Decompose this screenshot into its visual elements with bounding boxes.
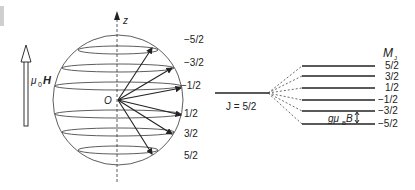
mj-label: 3/2	[184, 128, 198, 139]
spacing-label-B: B	[346, 113, 353, 124]
mj-label: 1/2	[184, 108, 198, 119]
z-axis-arrow-icon	[114, 11, 120, 20]
axis-label: z	[122, 15, 128, 26]
level-label: −1/2	[378, 94, 398, 105]
j-label: J = 5/2	[226, 101, 257, 112]
field-arrow-icon	[21, 45, 31, 126]
mj-label: −1/2	[181, 80, 201, 91]
mj-label: 5/2	[184, 150, 198, 161]
level-label: 3/2	[385, 71, 399, 82]
field-label-mu: μ	[30, 75, 37, 86]
spacing-label-g: gμ	[328, 113, 340, 124]
mj-label: −3/2	[184, 57, 204, 68]
field-label-sub: 0	[38, 81, 42, 88]
level-label: 5/2	[385, 60, 399, 71]
diagram-canvas: μ 0 H z O −5/2 −3/2 −1/2	[0, 0, 415, 190]
spacing-arrow-icon	[355, 112, 359, 123]
splitting-lines	[268, 66, 302, 124]
mj-header: M	[383, 46, 393, 60]
mj-label: −5/2	[184, 34, 204, 45]
level-label: 1/2	[385, 82, 399, 93]
level-label: −5/2	[378, 118, 398, 129]
field-label-H: H	[43, 74, 52, 86]
zeeman-diagram: μ 0 H z O −5/2 −3/2 −1/2	[0, 0, 415, 190]
level-label: −3/2	[378, 105, 398, 116]
origin-label: O	[104, 95, 112, 106]
